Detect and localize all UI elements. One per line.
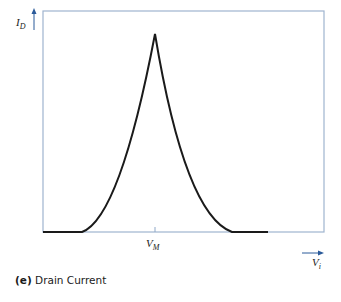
x-axis-arrow-icon bbox=[302, 251, 324, 256]
x-axis-label: Vi bbox=[312, 256, 321, 271]
drain-current-curve bbox=[43, 34, 268, 232]
caption-text: Drain Current bbox=[32, 274, 107, 286]
drain-current-chart: ID VM Vi bbox=[0, 0, 341, 302]
caption-tag: (e) bbox=[15, 274, 32, 286]
y-axis-label: ID bbox=[15, 16, 26, 31]
y-axis-arrow-icon bbox=[32, 8, 37, 30]
plot-frame bbox=[43, 11, 324, 232]
figure-caption: (e) Drain Current bbox=[15, 274, 106, 286]
vm-tick-label: VM bbox=[146, 237, 161, 252]
